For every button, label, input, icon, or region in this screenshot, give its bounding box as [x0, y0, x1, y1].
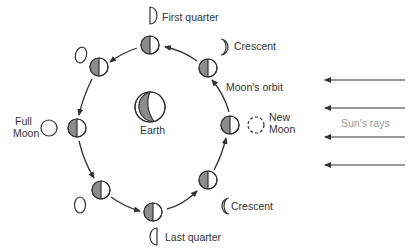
label-full-moon-line2: Moon [13, 127, 39, 139]
first-quarter-icon [150, 7, 157, 24]
orbit-moon-upper-left [90, 58, 108, 76]
label-last-quarter: Last quarter [165, 231, 221, 243]
label-crescent-bottom: Crescent [231, 200, 273, 212]
orbit-moon-top [141, 36, 159, 54]
gibbous-waning-icon [75, 197, 86, 213]
last-quarter-icon [150, 228, 157, 245]
orbit-arrow-lower-left-to-bottom [111, 197, 140, 211]
orbit-moon-upper-right [199, 59, 217, 77]
earth-icon [135, 92, 165, 122]
label-earth: Earth [140, 124, 165, 136]
orbit-arrow-upper-left-to-left [79, 79, 92, 115]
orbit-arrow-lower-right-to-right [214, 138, 226, 170]
full-moon-icon [41, 120, 57, 136]
orbit-moon-lower-right [199, 171, 217, 189]
orbit-moon-lower-left [92, 181, 110, 199]
label-sun-rays: Sun's rays [341, 117, 390, 129]
label-crescent-top: Crescent [234, 40, 276, 52]
orbit-arrow-bottom-to-lower-right [167, 191, 197, 209]
label-new-moon-line1: New [269, 111, 290, 123]
crescent-waning-icon [222, 198, 229, 214]
orbit-moon-bottom [144, 203, 162, 221]
new-moon-icon [248, 117, 264, 133]
label-moons-orbit: Moon's orbit [226, 81, 283, 93]
orbit-moon-right [221, 116, 239, 134]
orbit-arrow-upper-right-to-top [165, 47, 197, 61]
orbit-moon-left [68, 119, 86, 137]
label-first-quarter: First quarter [162, 11, 219, 23]
crescent-waxing-icon [221, 39, 228, 55]
label-full-moon-line1: Full [15, 115, 32, 127]
orbit-arrow-top-to-upper-left [110, 48, 137, 62]
orbit-arrow-left-to-lower-left [79, 141, 94, 178]
label-new-moon-line2: Moon [269, 123, 295, 135]
gibbous-waxing-icon [74, 46, 89, 64]
